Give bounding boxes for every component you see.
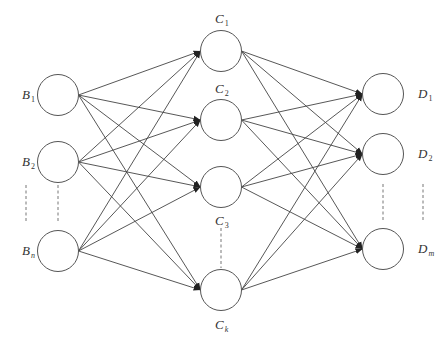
node-D1	[363, 74, 404, 115]
label-subscript: 2	[31, 162, 35, 171]
label-letter: B	[22, 87, 30, 102]
neural-network-diagram: B1B2BnC1C2C3CkD1D2Dm	[0, 0, 447, 348]
node-Dm	[363, 229, 404, 270]
node-C1	[201, 31, 242, 72]
label-B2: B2	[22, 155, 35, 171]
node-B1	[38, 75, 79, 116]
edge-B1-C1	[79, 51, 201, 95]
edge-B1-Ck	[79, 95, 201, 290]
label-subscript: m	[428, 249, 434, 258]
edge-B2-C3	[79, 162, 201, 187]
node-C2	[201, 100, 242, 141]
label-C2: C2	[215, 82, 229, 98]
edge-C2-D1	[242, 94, 363, 120]
node-B2	[38, 142, 79, 183]
label-subscript: 1	[225, 19, 229, 28]
edge-B2-C2	[79, 120, 201, 162]
label-B1: B1	[22, 88, 35, 104]
edge-C3-D2	[242, 154, 363, 187]
label-subscript: 1	[31, 95, 35, 104]
edge-C1-D2	[242, 51, 363, 154]
label-letter: C	[215, 81, 224, 96]
edge-C3-Dm	[242, 187, 363, 249]
label-C1: C1	[215, 12, 229, 28]
label-C3: C3	[215, 214, 229, 230]
edge-B1-C2	[79, 95, 201, 120]
label-subscript: 1	[428, 94, 432, 103]
label-Bn: Bn	[22, 244, 35, 260]
edge-Bn-C2	[79, 120, 201, 251]
label-Ck: Ck	[215, 318, 228, 334]
label-letter: B	[22, 154, 30, 169]
edge-B2-C1	[79, 51, 201, 162]
label-letter: B	[22, 243, 30, 258]
label-Dm: Dm	[418, 242, 434, 258]
node-Ck	[201, 270, 242, 311]
neuron-nodes	[38, 31, 404, 311]
edge-Ck-D1	[242, 94, 363, 290]
label-subscript: 2	[428, 154, 432, 163]
edge-Bn-C3	[79, 187, 201, 251]
label-letter: D	[418, 86, 427, 101]
node-D2	[363, 134, 404, 175]
edge-C3-D1	[242, 94, 363, 187]
edge-C2-Dm	[242, 120, 363, 249]
label-subscript: 2	[225, 89, 229, 98]
edge-C1-Dm	[242, 51, 363, 249]
label-subscript: k	[225, 325, 229, 334]
label-D2: D2	[418, 147, 432, 163]
label-letter: D	[418, 146, 427, 161]
edge-C1-D1	[242, 51, 363, 94]
label-letter: D	[418, 241, 427, 256]
node-Bn	[38, 231, 79, 272]
label-D1: D1	[418, 87, 432, 103]
label-subscript: 3	[225, 221, 229, 230]
label-letter: C	[215, 317, 224, 332]
node-C3	[201, 167, 242, 208]
edge-C2-D2	[242, 120, 363, 154]
network-graph	[0, 0, 447, 348]
label-letter: C	[215, 213, 224, 228]
label-letter: C	[215, 11, 224, 26]
label-subscript: n	[31, 251, 35, 260]
edge-Bn-C1	[79, 51, 201, 251]
